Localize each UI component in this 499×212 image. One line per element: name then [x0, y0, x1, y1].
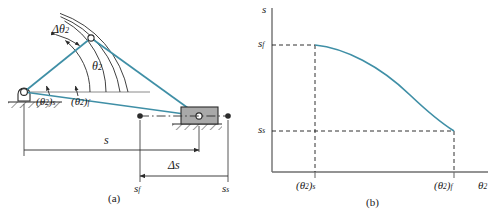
- chart-x-axis-label: θ2: [478, 180, 487, 191]
- coupler-link: [91, 38, 199, 116]
- arc-delta-theta2: [56, 35, 80, 46]
- caption-panel-a: (a): [108, 192, 120, 204]
- label-theta2: θ2: [92, 60, 102, 72]
- caption-panel-b: (b): [366, 196, 379, 208]
- panel-b-chart: [250, 0, 499, 212]
- series-slider-position: [315, 45, 454, 131]
- chart-y-axis-label: s: [262, 4, 266, 15]
- x-axis-ticks: [315, 172, 454, 178]
- label-theta2-start: (θ2)s: [36, 96, 55, 107]
- extreme-position-dot-left: [137, 113, 143, 119]
- ground-pivot-joint: [21, 89, 28, 96]
- chart-ytick-s-start: ss: [258, 124, 265, 135]
- crank-link-start: [24, 38, 91, 92]
- chart-ytick-s-final: sf: [258, 38, 264, 49]
- label-s-final: sf: [134, 183, 140, 194]
- crank-coupler-joint: [88, 35, 94, 41]
- label-theta2-final: (θ2)f: [71, 96, 90, 107]
- label-delta-s: Δs: [168, 159, 180, 171]
- chart-xtick-theta2-final: (θ2)f: [434, 180, 453, 191]
- chart-xtick-theta2-start: (θ2)s: [296, 180, 315, 191]
- extreme-position-dot-right: [225, 113, 231, 119]
- label-stroke-s: s: [104, 134, 109, 146]
- angle-arc-group: [60, 13, 128, 92]
- label-s-start: ss: [222, 183, 229, 194]
- figure-container: Δθ2 θ2 (θ2)s (θ2)f s Δs sf ss (a): [0, 0, 499, 212]
- label-delta-theta2: Δθ2: [52, 23, 69, 35]
- slider-ground: [172, 124, 222, 130]
- chart-guide-lines: [272, 45, 454, 172]
